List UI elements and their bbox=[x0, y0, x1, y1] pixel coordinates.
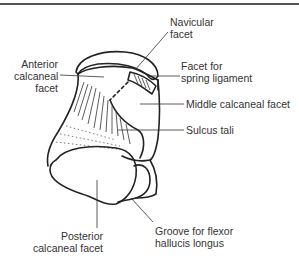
label-groove-fhl: Groove for flexor hallucis longus bbox=[155, 225, 233, 249]
label-line: Anterior bbox=[14, 58, 58, 70]
posterior-facet-outline bbox=[50, 147, 136, 205]
label-line: facet bbox=[14, 82, 58, 94]
label-sulcus-tali: Sulcus tali bbox=[186, 124, 234, 136]
label-line: Posterior bbox=[20, 230, 103, 242]
label-navicular-facet: Navicular facet bbox=[170, 16, 214, 40]
label-line: Groove for flexor bbox=[155, 225, 233, 237]
leader-lines bbox=[60, 32, 184, 228]
label-facet-spring-ligament: Facet for spring ligament bbox=[181, 60, 252, 84]
navicular-facet-outline bbox=[76, 52, 158, 80]
label-line: spring ligament bbox=[181, 72, 252, 84]
label-middle-calcaneal-facet: Middle calcaneal facet bbox=[186, 98, 290, 110]
label-line: Sulcus tali bbox=[186, 124, 234, 136]
label-line: Middle calcaneal facet bbox=[186, 98, 290, 110]
label-line: hallucis longus bbox=[155, 237, 233, 249]
label-anterior-calcaneal-facet: Anterior calcaneal facet bbox=[14, 58, 58, 94]
spring-ligament-facet bbox=[128, 72, 156, 94]
label-posterior-calcaneal-facet: Posterior calcaneal facet bbox=[20, 230, 103, 254]
label-line: calcaneal bbox=[14, 70, 58, 82]
middle-facet-outline bbox=[122, 80, 160, 161]
label-line: Facet for bbox=[181, 60, 252, 72]
label-line: facet bbox=[170, 28, 214, 40]
dashed-divider bbox=[110, 82, 128, 100]
talus-illustration bbox=[0, 0, 299, 265]
label-line: calcaneal facet bbox=[20, 242, 103, 254]
label-line: Navicular bbox=[170, 16, 214, 28]
